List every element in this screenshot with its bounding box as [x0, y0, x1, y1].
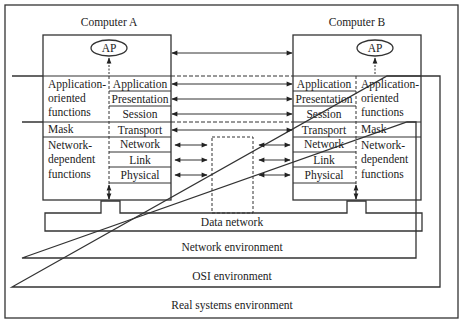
- a-layer-application: Application: [113, 78, 168, 91]
- a-net-dependent-line3: functions: [48, 168, 91, 180]
- a-net-dependent-line2: dependent: [48, 153, 96, 166]
- a-app-oriented-line2: oriented: [48, 92, 86, 104]
- b-layer-application: Application: [297, 78, 352, 91]
- b-app-oriented-line3: functions: [361, 106, 404, 118]
- b-layer-session: Session: [306, 108, 341, 120]
- b-net-dependent-line2: dependent: [361, 153, 409, 166]
- computer-b-ap-label: AP: [368, 42, 383, 54]
- b-layer-transport: Transport: [302, 124, 347, 137]
- b-layer-physical: Physical: [305, 169, 344, 182]
- b-net-dependent-line3: functions: [361, 168, 404, 180]
- a-net-dependent-line1: Network-: [48, 139, 92, 151]
- b-layer-network: Network: [304, 138, 344, 150]
- osi-diagram: Computer A Computer B AP AP Application-…: [0, 0, 464, 325]
- b-layer-presentation: Presentation: [296, 93, 353, 105]
- a-layer-link: Link: [129, 154, 151, 166]
- computer-a-ap-label: AP: [102, 42, 117, 54]
- real-systems-environment-label: Real systems environment: [171, 299, 293, 312]
- b-net-dependent-line1: Network-: [361, 139, 405, 151]
- a-layer-transport: Transport: [118, 124, 163, 137]
- b-app-oriented-line2: oriented: [361, 92, 399, 104]
- computer-b-title: Computer B: [329, 16, 386, 29]
- a-layer-presentation: Presentation: [112, 93, 169, 105]
- a-mask-label: Mask: [48, 123, 74, 135]
- b-mask-label: Mask: [361, 123, 387, 135]
- a-layer-session: Session: [122, 108, 157, 120]
- data-network-node: [212, 137, 253, 213]
- data-network-label: Data network: [201, 216, 264, 228]
- computer-a-title: Computer A: [81, 16, 138, 29]
- b-app-oriented-line1: Application-: [361, 78, 419, 91]
- a-layer-network: Network: [120, 138, 160, 150]
- a-app-oriented-line1: Application-: [48, 78, 106, 91]
- osi-environment-label: OSI environment: [192, 270, 272, 282]
- b-layer-link: Link: [313, 154, 335, 166]
- network-environment-label: Network environment: [181, 241, 283, 253]
- a-app-oriented-line3: functions: [48, 106, 91, 118]
- a-layer-physical: Physical: [121, 169, 160, 182]
